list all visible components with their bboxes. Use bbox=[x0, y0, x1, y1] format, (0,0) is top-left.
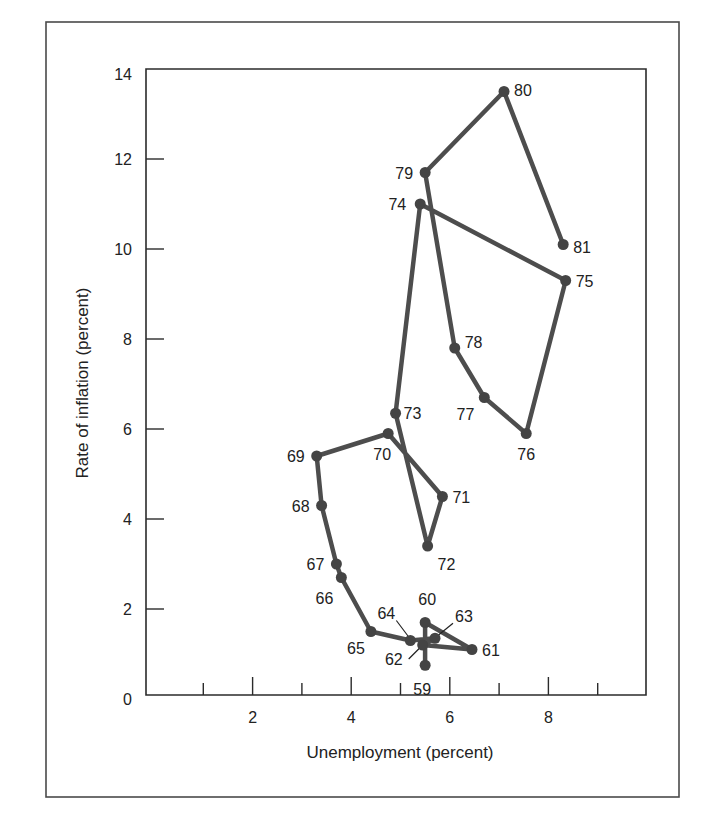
data-point-label: 61 bbox=[482, 642, 500, 659]
data-point-80 bbox=[499, 86, 510, 97]
data-points bbox=[311, 86, 571, 671]
data-point-74 bbox=[415, 199, 426, 210]
data-point-67 bbox=[331, 559, 342, 570]
data-point-label: 75 bbox=[576, 273, 594, 290]
y-tick-label: 14 bbox=[114, 66, 132, 83]
data-point-label: 63 bbox=[455, 608, 473, 625]
data-point-62 bbox=[417, 640, 428, 651]
y-tick-label: 6 bbox=[123, 421, 132, 438]
x-axis-ticks: 2468 bbox=[203, 677, 597, 726]
data-point-label: 81 bbox=[573, 239, 591, 256]
y-tick-label: 12 bbox=[114, 151, 132, 168]
data-point-label: 60 bbox=[418, 591, 436, 608]
connecting-line bbox=[317, 92, 566, 666]
data-point-label: 76 bbox=[517, 446, 535, 463]
data-point-label: 77 bbox=[457, 406, 475, 423]
leader-64 bbox=[396, 621, 408, 637]
data-point-69 bbox=[311, 451, 322, 462]
data-point-label: 69 bbox=[287, 448, 305, 465]
data-point-77 bbox=[479, 392, 490, 403]
data-point-66 bbox=[336, 572, 347, 583]
data-point-label: 62 bbox=[385, 651, 403, 668]
data-point-63 bbox=[430, 633, 441, 644]
y-axis-title: Rate of inflation (percent) bbox=[73, 288, 92, 479]
data-point-81 bbox=[558, 239, 569, 250]
x-axis-title: Unemployment (percent) bbox=[306, 743, 493, 762]
plot-border bbox=[146, 69, 646, 695]
data-point-65 bbox=[365, 626, 376, 637]
data-point-label: 73 bbox=[404, 405, 422, 422]
plot-area bbox=[146, 69, 646, 695]
data-point-label: 67 bbox=[307, 556, 325, 573]
data-point-70 bbox=[383, 428, 394, 439]
x-tick-label: 2 bbox=[248, 709, 257, 726]
data-point-label: 70 bbox=[373, 446, 391, 463]
outer-frame bbox=[46, 22, 679, 797]
data-point-71 bbox=[437, 491, 448, 502]
chart-canvas: 2468 02468101214 59606162636465666768697… bbox=[0, 0, 709, 831]
data-point-label: 72 bbox=[438, 556, 456, 573]
x-tick-label: 6 bbox=[445, 709, 454, 726]
y-tick-label: 8 bbox=[123, 331, 132, 348]
y-tick-label: 0 bbox=[123, 691, 132, 708]
data-point-64 bbox=[405, 635, 416, 646]
data-point-79 bbox=[420, 167, 431, 178]
data-point-label: 80 bbox=[514, 82, 532, 99]
data-point-label: 64 bbox=[377, 605, 395, 622]
data-point-label: 71 bbox=[452, 489, 470, 506]
x-tick-label: 4 bbox=[347, 709, 356, 726]
data-point-76 bbox=[521, 428, 532, 439]
data-point-59 bbox=[420, 660, 431, 671]
y-tick-label: 2 bbox=[123, 601, 132, 618]
data-point-68 bbox=[316, 500, 327, 511]
data-point-61 bbox=[466, 644, 477, 655]
data-point-72 bbox=[422, 541, 433, 552]
data-point-label: 78 bbox=[465, 334, 483, 351]
data-point-label: 79 bbox=[395, 165, 413, 182]
data-point-label: 74 bbox=[388, 196, 406, 213]
data-point-labels: 5960616263646566676869707172737475767778… bbox=[287, 82, 594, 699]
data-point-label: 66 bbox=[316, 590, 334, 607]
data-point-60 bbox=[420, 617, 431, 628]
data-point-73 bbox=[390, 408, 401, 419]
data-point-78 bbox=[449, 343, 460, 354]
data-point-label: 68 bbox=[292, 498, 310, 515]
y-tick-label: 10 bbox=[114, 241, 132, 258]
data-point-label: 65 bbox=[347, 640, 365, 657]
data-point-75 bbox=[560, 275, 571, 286]
y-axis-ticks: 02468101214 bbox=[114, 66, 164, 708]
x-tick-label: 8 bbox=[544, 709, 553, 726]
data-point-label: 59 bbox=[413, 681, 431, 698]
series-line bbox=[317, 92, 566, 666]
y-tick-label: 4 bbox=[123, 511, 132, 528]
